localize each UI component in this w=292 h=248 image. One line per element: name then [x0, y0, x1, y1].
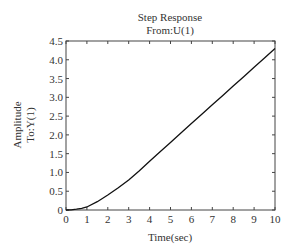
plot-border: [66, 41, 275, 210]
x-axis-label: Time(sec): [148, 231, 193, 244]
plot-area: [66, 41, 275, 210]
x-tick-label: 4: [147, 213, 153, 225]
x-tick-label: 1: [84, 213, 90, 225]
y-tick-label: 1.0: [49, 166, 63, 178]
x-tick-label: 7: [210, 213, 216, 225]
chart-subtitle: From:U(1): [146, 24, 194, 37]
chart-title: Step Response: [138, 11, 203, 23]
y-axis: 00.51.01.52.02.53.03.54.04.5: [49, 35, 275, 216]
y-tick-label: 3.0: [49, 91, 63, 103]
y-tick-label: 0: [58, 204, 64, 216]
step-response-chart: Step Response From:U(1) 012345678910 00.…: [0, 0, 292, 248]
x-tick-label: 10: [270, 213, 282, 225]
x-tick-label: 0: [63, 213, 69, 225]
x-tick-label: 9: [251, 213, 257, 225]
y-tick-label: 1.5: [49, 148, 63, 160]
x-axis: 012345678910: [63, 41, 281, 225]
y-tick-label: 0.5: [49, 185, 63, 197]
y-tick-label: 4.0: [49, 54, 63, 66]
y-tick-label: 2.0: [49, 129, 63, 141]
y-axis-label-output: To:Y(1): [24, 107, 37, 143]
y-tick-label: 4.5: [49, 35, 63, 47]
response-curve: [66, 49, 275, 211]
x-tick-label: 3: [126, 213, 132, 225]
y-tick-label: 3.5: [49, 73, 63, 85]
y-axis-label: Amplitude: [11, 101, 23, 148]
x-tick-label: 2: [105, 213, 111, 225]
y-tick-label: 2.5: [49, 110, 63, 122]
x-tick-label: 6: [189, 213, 195, 225]
x-tick-label: 5: [168, 213, 174, 225]
x-tick-label: 8: [230, 213, 236, 225]
